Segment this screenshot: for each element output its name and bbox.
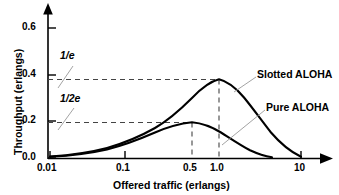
y-tick-label-0.0: 0.0 xyxy=(22,152,36,162)
annotation-one-over-e: 1/e xyxy=(60,50,75,61)
x-axis-title: Offered traffic (erlangs) xyxy=(113,180,230,191)
aloha-throughput-chart: 0.6 0.4 0.2 0.0 0.01 0.1 0.5 1.0 10 1/e … xyxy=(0,0,339,195)
x-axis-arrowhead xyxy=(320,153,333,164)
y-tick-label-0.2: 0.2 xyxy=(22,115,36,125)
annotation-one-over-2e: 1/2e xyxy=(60,93,80,104)
y-axis-title: Throughput (erlangs) xyxy=(12,49,24,155)
x-tick-label-10: 10 xyxy=(294,163,305,173)
curve-label-pure-aloha: Pure ALOHA xyxy=(266,102,329,113)
x-tick-label-0.1: 0.1 xyxy=(116,163,130,173)
curve-slotted-aloha xyxy=(50,79,301,157)
leader-line-1-over-e xyxy=(58,66,73,88)
leader-line-slotted-aloha xyxy=(234,77,256,92)
y-axis-arrowhead xyxy=(43,3,53,15)
leader-line-1-over-2e xyxy=(58,108,74,130)
curve-label-slotted-aloha: Slotted ALOHA xyxy=(257,69,332,80)
x-tick-label-1.0: 1.0 xyxy=(210,163,224,173)
x-tick-label-0.5: 0.5 xyxy=(183,163,197,173)
x-tick-label-0.01: 0.01 xyxy=(37,163,56,173)
y-tick-label-0.4: 0.4 xyxy=(22,69,36,79)
y-tick-label-0.6: 0.6 xyxy=(22,22,36,32)
leader-line-pure-aloha xyxy=(222,110,265,145)
